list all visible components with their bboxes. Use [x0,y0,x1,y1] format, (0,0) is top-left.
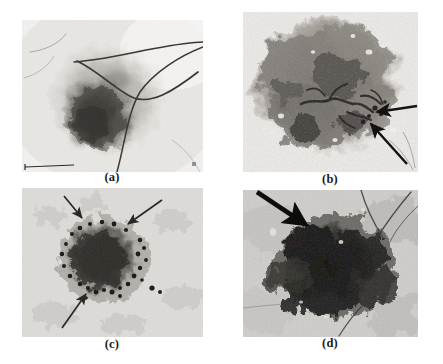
panel-label-a: (a) [82,170,142,184]
panel-c-canvas [22,188,203,337]
panel-a-canvas [22,20,203,172]
panel-label-d: (d) [300,336,360,350]
panel-c-image [22,188,203,337]
panel-b-image [243,12,418,172]
panel-label-c: (c) [82,337,142,351]
panel-a-image [22,20,203,172]
panel-d-canvas [243,190,418,337]
panel-b-canvas [243,12,418,172]
figure-container: (a) [0,0,443,364]
panel-label-b: (b) [300,172,360,186]
panel-d-image [243,190,418,337]
